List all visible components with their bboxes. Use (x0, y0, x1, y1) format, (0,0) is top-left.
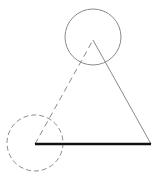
right-side-line (93, 40, 151, 144)
left-side-dashed-line (35, 40, 93, 144)
top-circle (65, 9, 121, 65)
geometry-diagram (0, 0, 159, 181)
